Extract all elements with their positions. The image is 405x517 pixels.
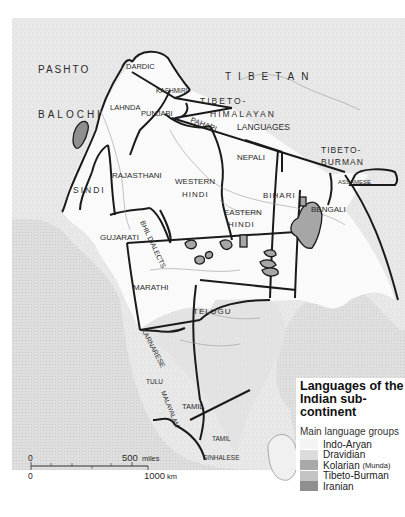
map-title-line-2: Indian sub-continent [300, 393, 405, 419]
label-lahnda: LAHNDA [110, 103, 140, 112]
legend-item-iranian: Iranian [300, 481, 405, 492]
scale-miles-unit: miles [142, 454, 160, 463]
label-tibeto-himalayan-1: TIBETO- [200, 96, 247, 106]
label-western-hindi-1: WESTERN [175, 177, 215, 186]
label-nepali: NEPALI [237, 153, 265, 162]
scale-km-max: 1000 [144, 470, 165, 481]
legend-label: Tibeto-Burman [323, 470, 389, 481]
label-tibetan: TIBETAN [225, 71, 315, 82]
label-tibeto-himalayan-3: LANGUAGES [237, 122, 290, 132]
label-tulu: TULU [146, 378, 163, 385]
sri-lanka [268, 434, 298, 480]
label-tamil-ceylon: TAMIL [212, 435, 231, 442]
swatch-indo-aryan [300, 439, 318, 449]
scale-miles-zero: 0 [28, 453, 33, 463]
swatch-dravidian [300, 450, 318, 460]
legend-item-kolarian: Kolarian (Munda) [300, 460, 405, 471]
label-balochi: BALOCHI [38, 109, 103, 120]
label-dardic: DARDIC [126, 62, 155, 71]
label-gujarati: GUJARATI [100, 233, 139, 242]
label-assamese: ASSAMESE [338, 179, 371, 185]
label-tamil: TAMIL [182, 402, 204, 411]
label-telugu: TELUGU [193, 307, 231, 316]
legend-note: (Munda) [362, 461, 390, 470]
legend-label: Indo-Aryan [323, 439, 372, 450]
label-kashmiri: KASHMIRI [156, 87, 188, 94]
label-pashto: PASHTO [38, 64, 90, 75]
label-sindi: SINDI [73, 185, 106, 195]
legend-item-tibeto-burman: Tibeto-Burman [300, 471, 405, 482]
legend-label: Iranian [323, 481, 354, 492]
swatch-tibeto-burman [300, 471, 318, 481]
scale-km-zero: 0 [28, 471, 33, 481]
label-rajasthani: RAJASTHANI [112, 171, 162, 180]
label-marathi: MARATHI [133, 283, 168, 292]
swatch-kolarian [300, 460, 318, 470]
scale-km-unit: km [167, 472, 177, 481]
legend-label: Kolarian [323, 460, 360, 471]
label-tibeto-burman-2: BURMAN [321, 157, 364, 167]
label-bihari: BIHARI [263, 191, 296, 200]
label-eastern-hindi-1: EASTERN [224, 208, 262, 217]
scale-miles-max: 500 [122, 452, 138, 463]
legend-subtitle: Main language groups [300, 426, 405, 437]
label-western-hindi-2: HINDI [182, 190, 209, 199]
swatch-iranian [300, 481, 318, 491]
legend: Languages of the Indian sub-continent Ma… [296, 378, 405, 498]
label-sinhalese: SINHALESE [203, 454, 240, 461]
label-eastern-hindi-2: HINDI [228, 220, 255, 229]
label-tibeto-burman-1: TIBETO- [321, 145, 361, 155]
label-bengali: BENGALI [311, 205, 346, 214]
label-tibeto-himalayan-2: HIMALAYAN [210, 109, 276, 119]
legend-item-indo-aryan: Indo-Aryan [300, 439, 405, 450]
legend-item-dravidian: Dravidian [300, 450, 405, 461]
legend-label: Dravidian [323, 449, 365, 460]
label-punjabi: PUNJABI [141, 109, 173, 118]
